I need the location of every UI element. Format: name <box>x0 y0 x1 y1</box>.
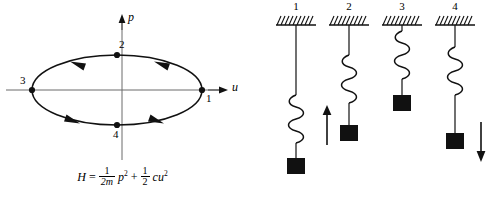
hamiltonian-equation: H = 1 2m p2 + 1 2 cu2 <box>0 166 245 187</box>
fraction-1-denominator: 2m <box>99 176 115 187</box>
fraction-1-numerator: 1 <box>102 166 111 176</box>
equation-lhs: H <box>77 171 86 183</box>
u-axis <box>6 87 228 94</box>
equation-plus: + <box>131 171 138 183</box>
spring-coil-1 <box>289 95 304 143</box>
mass-block-1 <box>287 158 305 174</box>
spring-system-2: 2 <box>321 0 377 190</box>
ceiling-hatching-2 <box>329 16 369 25</box>
term-1-exponent: 2 <box>124 169 128 178</box>
physics-figure: 1 2 3 4 p u H = 1 2m p2 + 1 2 cu2 1 <box>0 0 492 208</box>
spring-systems-panel: 1 <box>268 0 492 208</box>
ceiling-hatching-1 <box>276 16 316 25</box>
spring-system-3: 3 <box>374 0 430 190</box>
ceiling-hatching-4 <box>435 16 475 25</box>
u-axis-label: u <box>232 80 238 95</box>
spring-system-1: 1 <box>268 0 324 190</box>
phase-point-1-dot <box>199 87 205 93</box>
phase-plot-panel: 1 2 3 4 p u <box>0 0 246 166</box>
spring-coil-4 <box>448 47 463 95</box>
equation-equals: = <box>89 171 96 183</box>
term-2-exponent: 2 <box>164 169 168 178</box>
mass-block-3 <box>393 95 411 111</box>
spring-coil-2 <box>342 55 357 103</box>
down-arrow-icon <box>477 122 486 162</box>
p-axis-label: p <box>128 10 134 25</box>
spring-system-3-label: 3 <box>374 0 430 12</box>
phase-point-3-dot <box>29 87 35 93</box>
phase-point-2-label: 2 <box>119 38 125 50</box>
spring-system-2-label: 2 <box>321 0 377 12</box>
p-axis <box>119 14 126 160</box>
equation-term-1-variable: p2 <box>118 170 128 183</box>
ceiling-hatching-3 <box>382 16 422 25</box>
direction-arrow-bottom-left <box>64 115 80 124</box>
phase-point-4-label: 4 <box>113 128 119 140</box>
fraction-2-denominator: 2 <box>141 176 150 187</box>
direction-arrow-top-left <box>70 62 86 71</box>
spring-system-1-label: 1 <box>268 0 324 12</box>
spring-system-4-label: 4 <box>427 0 483 12</box>
spring-system-4: 4 <box>427 0 492 190</box>
equation-fraction-2: 1 2 <box>141 166 150 187</box>
fraction-2-numerator: 1 <box>141 166 150 176</box>
equation-term-2-variable: cu2 <box>153 170 168 183</box>
phase-point-3-label: 3 <box>20 74 26 86</box>
phase-point-2-dot <box>114 52 120 58</box>
phase-point-1-label: 1 <box>206 92 212 104</box>
mass-block-4 <box>446 133 464 149</box>
direction-arrow-top-right <box>154 62 170 71</box>
up-arrow-icon <box>323 105 332 145</box>
mass-block-2 <box>340 125 358 141</box>
equation-fraction-1: 1 2m <box>99 166 115 187</box>
spring-coil-3 <box>395 31 410 79</box>
